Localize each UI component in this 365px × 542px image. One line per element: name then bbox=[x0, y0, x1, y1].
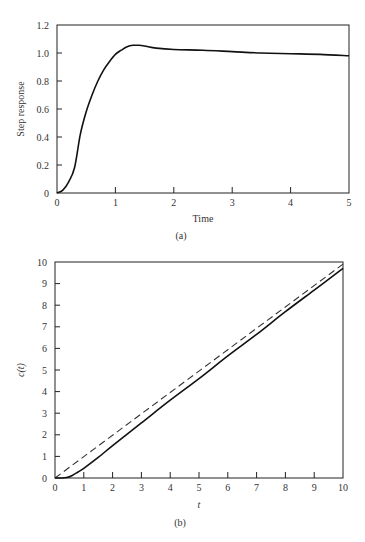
y-tick-label: 7 bbox=[42, 321, 47, 332]
y-tick-label: 3 bbox=[42, 408, 47, 419]
x-tick-label: 4 bbox=[288, 197, 293, 208]
x-tick-label: 2 bbox=[171, 197, 176, 208]
x-tick-label: 5 bbox=[197, 482, 202, 493]
y-tick-label: 8 bbox=[42, 300, 47, 311]
chart-b-x-axis-label: t bbox=[198, 499, 201, 510]
chart-a-x-axis-label: Time bbox=[193, 213, 214, 224]
chart-b-ramp-input-dashed-line bbox=[55, 264, 343, 478]
chart-a-y-ticks: 00.20.40.60.81.01.2 bbox=[37, 20, 63, 199]
chart-b-ramp-response: 012345678910 012345678910 t c(t) (b) bbox=[15, 257, 348, 530]
x-tick-label: 3 bbox=[139, 482, 144, 493]
x-tick-label: 7 bbox=[254, 482, 259, 493]
chart-b-plot-frame bbox=[55, 262, 343, 478]
x-tick-label: 1 bbox=[81, 482, 86, 493]
y-tick-label: 6 bbox=[42, 343, 47, 354]
y-tick-label: 0 bbox=[44, 188, 49, 199]
figure: 012345 00.20.40.60.81.01.2 Time Step res… bbox=[0, 0, 365, 542]
y-tick-label: 0 bbox=[42, 473, 47, 484]
chart-b-y-ticks: 012345678910 bbox=[37, 257, 60, 484]
chart-b-y-axis-label: c(t) bbox=[15, 362, 27, 377]
x-tick-label: 2 bbox=[110, 482, 115, 493]
y-tick-label: 1.2 bbox=[37, 20, 50, 31]
x-tick-label: 0 bbox=[55, 197, 60, 208]
y-tick-label: 1.0 bbox=[37, 48, 50, 59]
chart-a-y-axis-label: Step response bbox=[15, 81, 26, 137]
y-tick-label: 10 bbox=[37, 257, 47, 268]
x-tick-label: 6 bbox=[225, 482, 230, 493]
x-tick-label: 3 bbox=[230, 197, 235, 208]
y-tick-label: 9 bbox=[42, 278, 47, 289]
chart-a-x-ticks: 012345 bbox=[55, 187, 352, 208]
x-tick-label: 9 bbox=[312, 482, 317, 493]
chart-a-step-response: 012345 00.20.40.60.81.01.2 Time Step res… bbox=[15, 20, 352, 243]
chart-b-panel-label: (b) bbox=[174, 517, 186, 529]
chart-b-x-ticks: 012345678910 bbox=[53, 472, 349, 493]
x-tick-label: 1 bbox=[113, 197, 118, 208]
chart-a-step-response-curve bbox=[57, 45, 349, 193]
y-tick-label: 4 bbox=[42, 386, 47, 397]
x-tick-label: 0 bbox=[53, 482, 58, 493]
x-tick-label: 8 bbox=[283, 482, 288, 493]
y-tick-label: 0.4 bbox=[37, 132, 50, 143]
y-tick-label: 1 bbox=[42, 451, 47, 462]
x-tick-label: 5 bbox=[347, 197, 352, 208]
chart-a-panel-label: (a) bbox=[175, 230, 186, 242]
y-tick-label: 2 bbox=[42, 429, 47, 440]
x-tick-label: 4 bbox=[168, 482, 173, 493]
y-tick-label: 0.2 bbox=[37, 160, 50, 171]
y-tick-label: 0.6 bbox=[37, 104, 50, 115]
y-tick-label: 5 bbox=[42, 365, 47, 376]
y-tick-label: 0.8 bbox=[37, 76, 50, 87]
x-tick-label: 10 bbox=[338, 482, 348, 493]
chart-b-ramp-response-curve bbox=[55, 268, 343, 478]
